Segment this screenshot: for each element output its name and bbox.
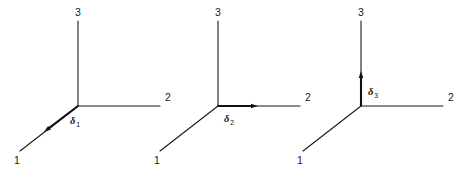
- triad-3-axis-3-label: 3: [358, 6, 364, 18]
- triad-1-axis-2-label: 2: [165, 91, 171, 103]
- triad-1-axis-3-label: 3: [75, 6, 81, 18]
- triad-1-delta-subscript: 1: [76, 121, 80, 128]
- triad-2-delta-symbol: δ: [224, 113, 230, 124]
- triad-3-delta-symbol: δ: [368, 86, 374, 97]
- triad-1-axis-1-label: 1: [14, 154, 20, 166]
- triad-2: 1 2 3 δ 2: [154, 6, 311, 166]
- triad-3-axis-1-label: 1: [297, 154, 303, 166]
- triad-2-axis-1-label: 1: [154, 154, 160, 166]
- triad-2-axis-2-label: 2: [305, 91, 311, 103]
- triad-2-delta-vector-arrowhead: [251, 104, 258, 109]
- triad-2-axis-1-line: [160, 106, 218, 151]
- triad-3-delta-subscript: 3: [374, 92, 378, 99]
- triad-3-axis-1-line: [303, 106, 361, 151]
- triad-1-delta-symbol: δ: [70, 115, 76, 126]
- triad-2-delta-subscript: 2: [230, 119, 234, 126]
- axis-triads-diagram: 1 2 3 δ 1 1 2 3 δ 2 1 2: [0, 0, 470, 171]
- triad-2-axis-3-label: 3: [215, 6, 221, 18]
- triad-3: 1 2 3 δ 3: [297, 6, 454, 166]
- figure-canvas: 1 2 3 δ 1 1 2 3 δ 2 1 2: [0, 0, 470, 171]
- triad-3-delta-vector-arrowhead: [359, 71, 364, 78]
- triad-1: 1 2 3 δ 1: [14, 6, 171, 166]
- triad-3-axis-2-label: 2: [448, 91, 454, 103]
